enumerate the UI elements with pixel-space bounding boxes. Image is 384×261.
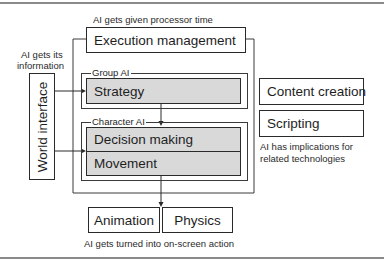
movement-label: Movement [94,156,157,171]
caption-implications-line2: related technologies [260,153,345,164]
caption-on-screen-action: AI gets turned into on-screen action [84,238,234,249]
content-creation-label: Content creation [267,84,366,99]
execution-management-box: Execution management [86,27,246,53]
animation-label: Animation [94,213,154,228]
caption-implications-line1: AI has implications for [260,141,353,152]
caption-processor-time: AI gets given processor time [93,14,213,25]
strategy-label: Strategy [94,84,144,99]
strategy-box: Strategy [86,78,241,104]
world-interface-box: World interface [29,73,55,180]
movement-box: Movement [86,151,241,176]
group-ai-label: Group AI [91,68,131,78]
decision-making-label: Decision making [94,132,193,147]
animation-box: Animation [88,207,160,233]
physics-label: Physics [174,213,221,228]
scripting-label: Scripting [267,116,320,131]
scripting-box: Scripting [259,110,364,137]
execution-management-label: Execution management [94,33,236,48]
physics-box: Physics [162,207,233,233]
character-ai-label: Character AI [91,117,146,127]
caption-information-line2: information [17,60,64,71]
world-interface-label: World interface [35,81,50,172]
content-creation-box: Content creation [259,78,364,105]
caption-information-line1: AI gets its [21,49,63,60]
decision-making-box: Decision making [86,127,241,152]
